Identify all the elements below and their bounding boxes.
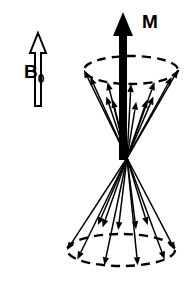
nmr-precession-figure: B0 M [0, 0, 185, 283]
spin-vector-arrowhead [141, 100, 147, 109]
spin-vector-arrowhead [134, 257, 140, 265]
spin-down-5 [77, 158, 127, 259]
spin-vector-arrowhead [132, 102, 138, 110]
lower-cone-vector-group [67, 158, 175, 265]
spin-vector-arrowhead [159, 251, 165, 260]
figure-canvas: B0 M [0, 0, 185, 283]
spin-vector-arrowhead [127, 84, 133, 92]
b0-subscript: 0 [38, 72, 45, 86]
spin-vector-arrowhead [106, 82, 112, 91]
spin-vector-arrowhead [142, 216, 148, 225]
lower-cone-base-ellipse [67, 234, 175, 266]
spin-vector-arrowhead [116, 222, 122, 230]
m-label: M [142, 11, 158, 32]
upper-cone-base-ellipse [84, 56, 178, 84]
spin-vector-arrowhead [77, 251, 83, 260]
spin-vector-arrowhead [102, 219, 108, 228]
spin-vector-arrowhead [103, 257, 109, 265]
spin-down-4 [103, 158, 127, 265]
spin-vector-arrowhead [132, 221, 138, 229]
